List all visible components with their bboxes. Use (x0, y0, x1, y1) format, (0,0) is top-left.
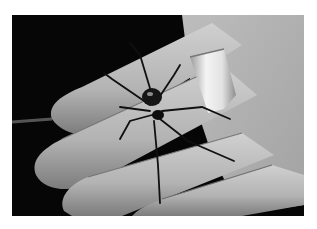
spider-on-hand-photo (12, 15, 304, 216)
